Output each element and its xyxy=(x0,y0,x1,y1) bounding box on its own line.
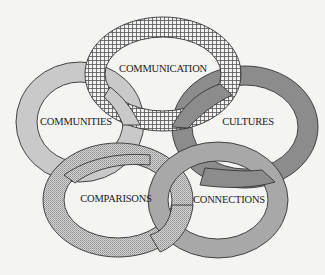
label-connections: CONNECTIONS xyxy=(193,195,265,206)
rings-canvas xyxy=(0,0,325,275)
label-comparisons: COMPARISONS xyxy=(80,194,152,205)
five-cs-ring-diagram: COMMUNICATION COMMUNITIES CULTURES COMPA… xyxy=(0,0,325,275)
label-cultures: CULTURES xyxy=(222,117,274,128)
label-communities: COMMUNITIES xyxy=(40,117,112,128)
label-communication: COMMUNICATION xyxy=(119,64,207,75)
